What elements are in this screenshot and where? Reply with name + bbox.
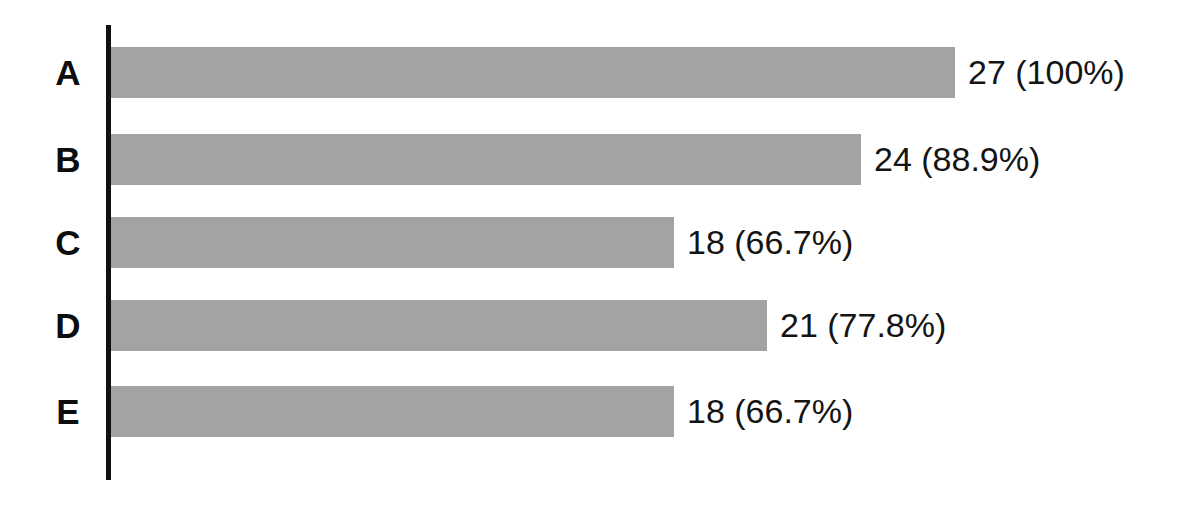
bar-d: [111, 300, 767, 351]
bar-value-e: 18 (66.7%): [687, 386, 853, 437]
category-label-c: C: [40, 217, 96, 268]
bar-value-c: 18 (66.7%): [687, 217, 853, 268]
bar-a: [111, 47, 955, 98]
bar-value-a: 27 (100%): [968, 47, 1125, 98]
bar-row: A 27 (100%): [0, 47, 1177, 98]
category-label-b: B: [40, 134, 96, 185]
bar-b: [111, 134, 861, 185]
bar-c: [111, 217, 674, 268]
bar-chart: A 27 (100%) B 24 (88.9%) C 18 (66.7%) D …: [0, 0, 1177, 505]
bar-row: C 18 (66.7%): [0, 217, 1177, 268]
bar-value-b: 24 (88.9%): [874, 134, 1040, 185]
bar-row: E 18 (66.7%): [0, 386, 1177, 437]
bar-e: [111, 386, 674, 437]
bar-row: D 21 (77.8%): [0, 300, 1177, 351]
bar-row: B 24 (88.9%): [0, 134, 1177, 185]
category-label-d: D: [40, 300, 96, 351]
bar-value-d: 21 (77.8%): [780, 300, 946, 351]
category-label-e: E: [40, 386, 96, 437]
category-label-a: A: [40, 47, 96, 98]
